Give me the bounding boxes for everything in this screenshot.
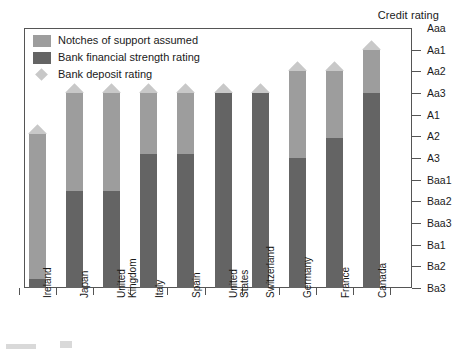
- y-axis-tick: [412, 266, 421, 267]
- y-axis-tick-label: Baa2: [427, 196, 452, 207]
- support-swatch-icon: [33, 35, 51, 47]
- x-axis-tick: [390, 288, 391, 295]
- y-axis-tick-label: Ba1: [427, 239, 446, 250]
- y-axis-tick-label: Baa3: [427, 218, 452, 229]
- x-axis-tick: [316, 288, 317, 295]
- y-axis-tick-label: A2: [427, 131, 440, 142]
- legend-label-support: Notches of support assumed: [58, 34, 198, 47]
- diamond-marker-icon: [35, 68, 48, 81]
- x-axis-tick: [353, 288, 354, 295]
- x-axis-tick: [19, 288, 20, 295]
- legend: Notches of support assumed Bank financia…: [33, 33, 263, 84]
- y-axis-tick-label: A1: [427, 109, 440, 120]
- y-axis-tick-label: Aa1: [427, 44, 446, 55]
- support-segment: [177, 93, 194, 154]
- y-axis: AaaAa1Aa2Aa3A1A2A3Baa1Baa2Baa3Ba1Ba2Ba3: [412, 28, 467, 288]
- x-axis-label: Spain: [191, 228, 202, 298]
- y-axis-tick-label: Aa2: [427, 66, 446, 77]
- legend-label-deposit: Bank deposit rating: [58, 68, 152, 81]
- x-axis-tick: [205, 288, 206, 295]
- y-axis-tick: [412, 93, 421, 94]
- chart-title: Credit rating: [378, 9, 439, 21]
- x-axis-tick: [279, 288, 280, 295]
- scan-artifact: [6, 344, 36, 349]
- legend-item-bfsr: Bank financial strength rating: [33, 50, 263, 66]
- y-axis-tick: [412, 288, 421, 289]
- y-axis-tick: [412, 180, 421, 181]
- y-axis-tick: [412, 136, 421, 137]
- y-axis-tick-label: Aaa: [427, 23, 446, 34]
- y-axis-tick-label: A3: [427, 153, 440, 164]
- legend-item-support: Notches of support assumed: [33, 33, 263, 49]
- y-axis-tick: [412, 201, 421, 202]
- support-segment: [289, 71, 306, 158]
- credit-rating-chart: Credit rating AaaAa1Aa2Aa3A1A2A3Baa1Baa2…: [0, 0, 467, 360]
- y-axis-tick: [412, 223, 421, 224]
- x-axis-label: Canada: [377, 228, 388, 298]
- x-axis-label: United States: [228, 228, 250, 298]
- x-axis-tick: [93, 288, 94, 295]
- x-axis-label: France: [340, 228, 351, 298]
- x-axis-label: Germany: [302, 228, 313, 298]
- legend-item-deposit: Bank deposit rating: [33, 67, 263, 83]
- scan-artifact: [60, 341, 72, 348]
- support-segment: [140, 93, 157, 154]
- bfsr-swatch-icon: [33, 52, 51, 64]
- x-axis-label: Japan: [79, 228, 90, 298]
- x-axis-label: Italy: [154, 228, 165, 298]
- y-axis-tick: [412, 50, 421, 51]
- y-axis-tick-label: Baa1: [427, 174, 452, 185]
- legend-label-bfsr: Bank financial strength rating: [58, 51, 200, 64]
- x-axis-label: United Kingdom: [116, 228, 138, 298]
- x-axis-tick: [167, 288, 168, 295]
- support-segment: [326, 71, 343, 138]
- y-axis-tick: [412, 71, 421, 72]
- x-axis-label: Switzerland: [265, 228, 276, 298]
- support-segment: [66, 93, 83, 191]
- support-segment: [363, 50, 380, 93]
- y-axis-tick-label: Ba2: [427, 261, 446, 272]
- y-axis-tick: [412, 115, 421, 116]
- support-segment: [103, 93, 120, 191]
- x-axis-tick: [56, 288, 57, 295]
- y-axis-tick-label: Ba3: [427, 283, 446, 294]
- y-axis-tick-label: Aa3: [427, 88, 446, 99]
- y-axis-tick: [412, 245, 421, 246]
- y-axis-tick: [412, 158, 421, 159]
- x-axis-label: Ireland: [42, 228, 53, 298]
